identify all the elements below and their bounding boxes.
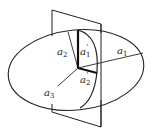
ellipsoid-plane-diagram: a1 a2 a3 a1' a2' bbox=[0, 0, 152, 134]
label-a2: a2 bbox=[57, 46, 67, 59]
label-a1-prime: a1' bbox=[80, 43, 90, 59]
label-a2-prime: a2' bbox=[80, 71, 90, 87]
axis-a3 bbox=[58, 68, 78, 86]
axis-a2 bbox=[68, 32, 78, 68]
cutting-plane-bottom bbox=[52, 100, 101, 127]
label-a1: a1 bbox=[117, 45, 127, 58]
label-a3: a3 bbox=[44, 87, 54, 100]
